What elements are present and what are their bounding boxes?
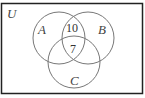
region-a-b-c-value: 7 (70, 42, 76, 56)
set-c-label: C (70, 73, 79, 88)
venn-diagram: U A B C 10 7 (0, 0, 145, 98)
set-a-circle (33, 12, 85, 64)
set-a-label: A (37, 22, 46, 37)
region-a-b-only-value: 10 (66, 21, 78, 35)
set-b-label: B (98, 22, 106, 37)
universe-label: U (7, 6, 18, 21)
set-b-circle (62, 12, 114, 64)
